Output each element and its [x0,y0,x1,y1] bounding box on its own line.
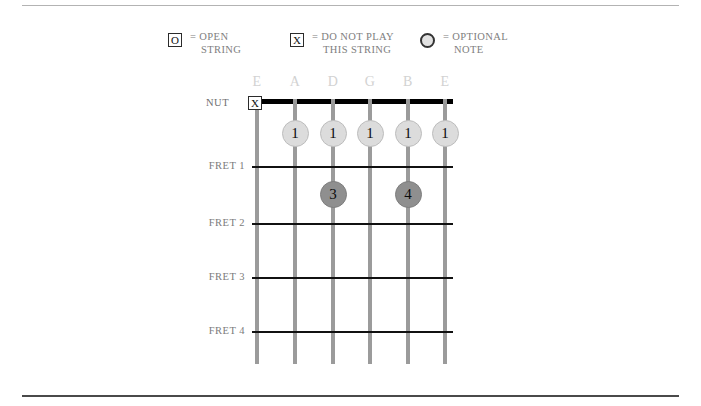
string-label-5: E [433,74,457,90]
fret-label-2: FRET 2 [185,217,245,229]
nut-bar [252,99,453,104]
finger-dot-D-fret1[interactable]: 1 [320,120,347,147]
fret-label-4: FRET 4 [185,325,245,337]
string-label-0: E [245,74,269,90]
mute-marker-low-e[interactable]: X [248,96,262,110]
bottom-divider [22,395,679,397]
fret-line-4 [252,331,453,333]
chord-diagram: NUT X EADGBEFRET 1FRET 2FRET 3FRET 41111… [0,0,701,406]
finger-dot-B-fret2[interactable]: 4 [395,181,422,208]
finger-dot-D-fret2[interactable]: 3 [320,181,347,208]
fret-label-3: FRET 3 [185,271,245,283]
nut-label: NUT [206,97,229,109]
finger-dot-G-fret1[interactable]: 1 [357,120,384,147]
fret-label-1: FRET 1 [185,160,245,172]
finger-dot-E-fret1[interactable]: 1 [432,120,459,147]
finger-dot-B-fret1[interactable]: 1 [395,120,422,147]
string-label-3: G [358,74,382,90]
string-label-4: B [396,74,420,90]
string-0[interactable] [255,99,259,364]
string-label-2: D [321,74,345,90]
fret-line-3 [252,277,453,279]
fret-line-1 [252,166,453,168]
finger-dot-A-fret1[interactable]: 1 [282,120,309,147]
string-label-1: A [283,74,307,90]
fret-line-2 [252,223,453,225]
